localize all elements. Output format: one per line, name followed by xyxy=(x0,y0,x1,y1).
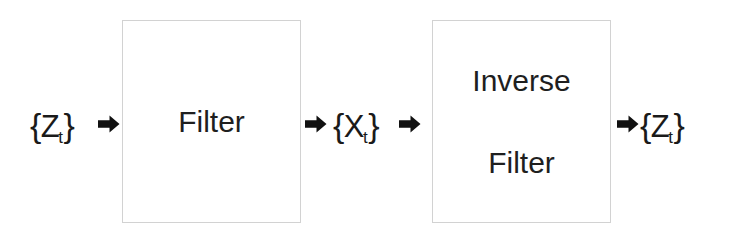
input-signal-subscript: t xyxy=(58,129,62,146)
inverse-filter-block-label-line-2: Filter xyxy=(488,148,555,178)
intermediate-signal-subscript: t xyxy=(363,129,367,146)
filter-block: Filter xyxy=(122,20,301,223)
intermediate-signal-close-brace: } xyxy=(368,108,379,142)
intermediate-signal-label: {Xt} xyxy=(333,108,379,142)
filter-block-label: Filter xyxy=(178,107,245,137)
output-signal-subscript: t xyxy=(668,129,672,146)
arrow-right-icon xyxy=(399,114,421,134)
arrow-right-icon xyxy=(98,114,120,134)
intermediate-signal-base: X xyxy=(344,111,364,142)
inverse-filter-block-label-line-1: Inverse xyxy=(472,66,570,96)
arrow-right-icon xyxy=(305,114,327,134)
inverse-filter-block: Inverse Filter xyxy=(432,20,611,223)
intermediate-signal-open-brace: { xyxy=(333,108,344,142)
output-signal-base: Z xyxy=(651,111,669,142)
input-signal-open-brace: { xyxy=(30,108,41,142)
arrow-right-icon xyxy=(617,114,639,134)
output-signal-open-brace: { xyxy=(640,108,651,142)
input-signal-base: Z xyxy=(41,111,59,142)
input-signal-label: {Zt} xyxy=(30,108,74,142)
input-signal-close-brace: } xyxy=(64,108,75,142)
output-signal-close-brace: } xyxy=(674,108,685,142)
output-signal-label: {Zt} xyxy=(640,108,684,142)
block-diagram: {Zt} Filter {Xt} Inverse Filter xyxy=(0,0,729,243)
